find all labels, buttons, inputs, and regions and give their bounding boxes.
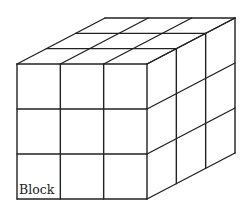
top-depth-line	[60, 18, 148, 64]
side-depth-line	[147, 108, 235, 154]
block-label: Block	[19, 184, 54, 197]
side-depth-line	[147, 153, 235, 199]
top-depth-line	[17, 18, 105, 64]
top-depth-line	[104, 18, 192, 64]
side-depth-line	[147, 18, 235, 64]
cube-grid-drawing	[0, 0, 250, 211]
side-depth-line	[147, 63, 235, 109]
